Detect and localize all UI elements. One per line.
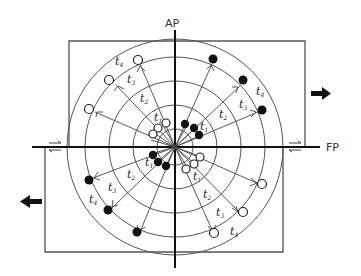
right-arrow-icon <box>311 87 331 100</box>
fp-label: FP <box>326 141 339 154</box>
svg-text:t4: t4 <box>115 55 123 68</box>
svg-text:t3: t3 <box>108 181 116 194</box>
svg-text:t4: t4 <box>89 193 97 206</box>
svg-text:t2: t2 <box>127 168 135 181</box>
svg-text:t2: t2 <box>203 188 211 201</box>
svg-text:t3: t3 <box>127 73 135 86</box>
svg-text:t1: t1 <box>200 120 208 133</box>
svg-text:t4: t4 <box>256 85 264 98</box>
ap-label: AP <box>165 17 180 30</box>
svg-text:t2: t2 <box>219 108 227 121</box>
svg-text:t2: t2 <box>140 92 148 105</box>
diagram-canvas: AP FP <box>0 0 361 276</box>
left-arrow-icon <box>20 195 42 208</box>
svg-text:t3: t3 <box>239 98 247 111</box>
svg-text:t3: t3 <box>216 206 224 219</box>
svg-text:t4: t4 <box>230 225 238 238</box>
